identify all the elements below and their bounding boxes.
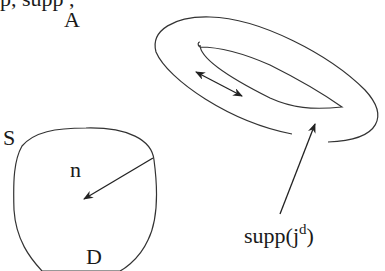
ring-outer-boundary [155,17,378,142]
label-d: D [86,246,102,268]
supp-base-text: supp(j [244,223,299,248]
label-a: A [64,9,80,31]
diagram-svg [0,0,385,271]
normal-vector-arrow [84,158,153,199]
ring-inner-boundary [198,42,342,108]
label-s: S [3,127,15,149]
label-supp-jd: supp(jd) [244,225,314,247]
supp-close-paren: ) [307,223,314,248]
label-n: n [70,159,81,181]
diagram: p, supp , A S n D supp(jd) [0,0,385,271]
supp-superscript: d [299,221,307,237]
support-pointer-arrow [280,124,315,214]
current-double-arrow [196,72,242,96]
